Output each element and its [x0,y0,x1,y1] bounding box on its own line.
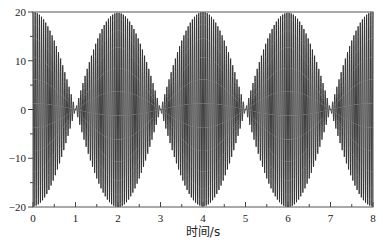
x-tick-label: 2 [115,212,121,224]
signal-line [33,12,373,207]
y-tick-label: 10 [15,55,27,67]
y-tick-label: −10 [9,152,27,164]
x-tick-label: 7 [328,212,334,224]
x-tick-label: 6 [285,212,291,224]
x-axis: 012345678 [30,202,376,224]
x-tick-label: 4 [200,212,206,224]
y-tick-label: 20 [15,6,27,18]
x-tick-label: 0 [30,212,36,224]
beat-signal-chart: 012345678 20100−10−20 时间/s [0,0,383,250]
y-axis: 20100−10−20 [9,6,33,213]
y-tick-label: −20 [9,201,27,213]
x-axis-title: 时间/s [186,225,220,239]
plot-area [33,12,373,207]
x-tick-label: 3 [158,212,164,224]
x-tick-label: 5 [243,212,249,224]
y-tick-label: 0 [21,104,27,116]
x-tick-label: 1 [73,212,79,224]
x-tick-label: 8 [370,212,376,224]
